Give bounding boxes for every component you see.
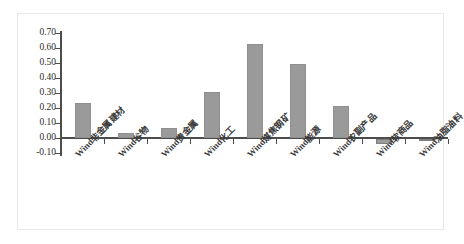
- bar[interactable]: [247, 44, 263, 139]
- y-axis-tick: [55, 108, 61, 109]
- y-axis-labels: 0.700.600.500.400.300.200.100.00-0.10: [18, 0, 56, 244]
- y-axis-tick: [55, 123, 61, 124]
- y-axis-tick-label: 0.60: [22, 42, 56, 52]
- y-axis-tick: [55, 33, 61, 34]
- y-axis-tick-label: 0.20: [22, 102, 56, 112]
- bar[interactable]: [204, 92, 220, 138]
- y-axis-tick: [55, 93, 61, 94]
- bar[interactable]: [75, 103, 91, 138]
- y-axis-tick: [55, 138, 61, 139]
- y-axis-tick-label: 0.50: [22, 57, 56, 67]
- x-axis-tick: [147, 139, 148, 144]
- bar[interactable]: [290, 64, 306, 138]
- y-axis-tick-label: 0.00: [22, 132, 56, 142]
- bar[interactable]: [333, 106, 349, 138]
- y-axis-tick-label: 0.30: [22, 87, 56, 97]
- x-axis-tick: [319, 139, 320, 144]
- y-axis-tick-label: 0.70: [22, 27, 56, 37]
- x-axis-tick: [362, 139, 363, 144]
- y-axis-tick-label: -0.10: [22, 147, 56, 157]
- y-axis-tick: [55, 153, 61, 154]
- y-axis-tick: [55, 63, 61, 64]
- x-axis-tick: [233, 139, 234, 144]
- x-axis-tick: [448, 139, 449, 144]
- x-axis-tick: [190, 139, 191, 144]
- x-axis-tick: [405, 139, 406, 144]
- x-axis-tick: [104, 139, 105, 144]
- x-axis-tick: [276, 139, 277, 144]
- y-axis-tick: [55, 48, 61, 49]
- y-axis-tick-label: 0.40: [22, 72, 56, 82]
- y-axis-tick: [55, 78, 61, 79]
- y-axis-tick-label: 0.10: [22, 117, 56, 127]
